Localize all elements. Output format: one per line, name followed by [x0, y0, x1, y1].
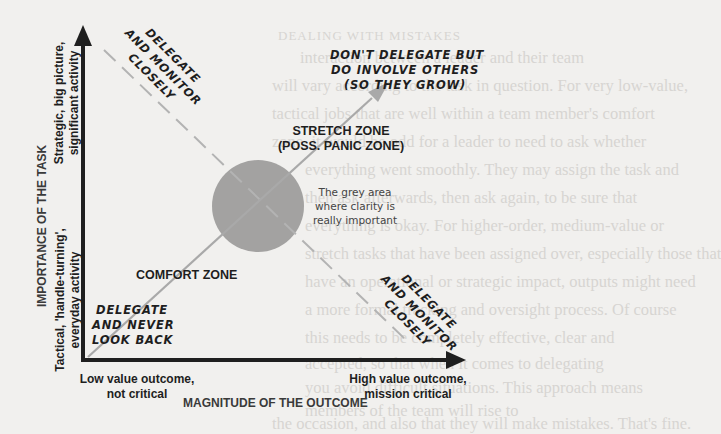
- x-axis-title: MAGNITUDE OF THE OUTCOME: [183, 396, 368, 410]
- stretch-zone-label: STRETCH ZONE (POSS. PANIC ZONE): [276, 124, 406, 154]
- grey-area-note-line: The grey area: [305, 185, 405, 199]
- advice-line: LOOK BACK: [92, 333, 172, 348]
- grey-area-note-line: really important: [305, 213, 405, 227]
- y-axis-low-label-line: everyday activity: [68, 220, 83, 380]
- advice-line: DON'T DELEGATE BUT: [330, 48, 480, 63]
- y-axis-high-label-line: Strategic, big picture,: [52, 28, 67, 178]
- y-axis-title: IMPORTANCE OF THE TASK: [35, 147, 49, 307]
- y-axis-low-label-line: Tactical, 'handle-turning',: [53, 220, 68, 380]
- grey-area-note: The grey area where clarity is really im…: [305, 185, 405, 227]
- advice-line: DO INVOLVE OTHERS: [330, 63, 480, 78]
- advice-line: (SO THEY GROW): [330, 78, 480, 93]
- advice-line: DELEGATE: [92, 303, 172, 318]
- stretch-zone-line: STRETCH ZONE: [276, 124, 406, 139]
- x-axis-high-label-line: High value outcome,: [338, 372, 478, 387]
- y-axis-high-label-line: significant activity: [67, 28, 82, 178]
- grey-area-note-line: where clarity is: [305, 199, 405, 213]
- advice-delegate-never-look-back: DELEGATE AND NEVER LOOK BACK: [92, 303, 172, 348]
- y-axis-high-label: Strategic, big picture, significant acti…: [52, 28, 82, 178]
- advice-line: AND NEVER: [92, 318, 172, 333]
- advice-dont-delegate: DON'T DELEGATE BUT DO INVOLVE OTHERS (SO…: [330, 48, 480, 93]
- y-axis-low-label: Tactical, 'handle-turning', everyday act…: [53, 220, 83, 380]
- stretch-zone-line: (POSS. PANIC ZONE): [276, 139, 406, 154]
- comfort-zone-label: COMFORT ZONE: [136, 268, 237, 283]
- x-axis-low-label-line: Low value outcome,: [62, 372, 212, 387]
